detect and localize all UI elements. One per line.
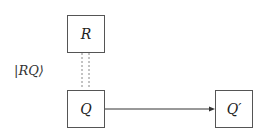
node-r-label: R bbox=[81, 26, 92, 42]
node-qprime: Q′ bbox=[215, 90, 253, 128]
entanglement-label: |RQ⟩ bbox=[14, 63, 44, 78]
node-q-label: Q bbox=[80, 101, 91, 117]
diagram-canvas: R |RQ⟩ Q Q′ bbox=[0, 0, 265, 137]
node-r: R bbox=[67, 15, 105, 53]
node-qprime-label: Q′ bbox=[227, 101, 242, 117]
node-q: Q bbox=[67, 90, 105, 128]
